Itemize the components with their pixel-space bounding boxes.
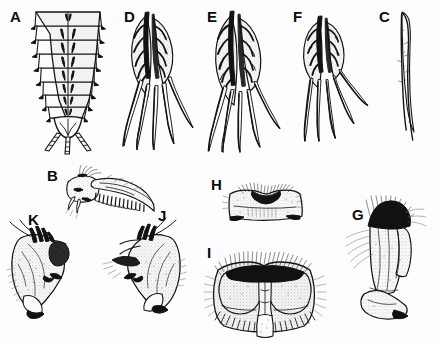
genital-lobes-drawing <box>204 250 326 340</box>
gill-e-drawing <box>209 8 289 152</box>
panel-figure-d <box>126 8 204 150</box>
panel-figure-e <box>209 8 289 152</box>
panel-figure-k <box>4 220 96 324</box>
genital-forceps-left-drawing <box>4 220 96 324</box>
panel-figure-b <box>62 168 168 224</box>
genital-forceps-right-drawing <box>96 218 190 320</box>
panel-figure-c <box>392 10 422 144</box>
panel-label-c: C <box>379 9 390 24</box>
mandible-drawing <box>62 168 168 224</box>
subgenital-plate-drawing <box>222 182 310 228</box>
appendage-drawing <box>340 196 440 332</box>
panel-label-b: B <box>47 168 58 183</box>
panel-figure-g <box>340 196 440 332</box>
setal-brush <box>226 266 304 283</box>
median-projection <box>257 315 274 338</box>
panel-figure-a <box>24 6 124 154</box>
panel-figure-h <box>222 182 310 228</box>
dark-sclerite <box>112 256 140 266</box>
panel-label-h: H <box>211 177 222 192</box>
dark-sclerite <box>49 242 69 266</box>
panel-figure-j <box>96 218 190 320</box>
panel-figure-i <box>204 250 326 340</box>
abdomen-dorsal-drawing <box>24 6 124 154</box>
gill-d-drawing <box>126 8 204 150</box>
panel-figure-f <box>298 8 374 148</box>
illustration-plate: A <box>0 0 440 342</box>
gill-f-drawing <box>298 8 374 148</box>
gill-c-drawing <box>392 10 422 144</box>
panel-label-a: A <box>10 9 21 24</box>
